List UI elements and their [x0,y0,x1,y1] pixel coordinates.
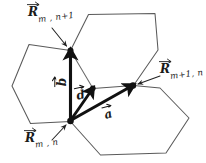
node-right [130,82,136,88]
vector-symbol-R-right: R [160,63,170,75]
vector-symbol-b: b [56,78,68,86]
hexagonal-lattice-figure: R m , n+1 R m+1, n R m , n [0,0,206,163]
label-text: R [28,5,38,19]
pointer-to-right-node [138,76,160,84]
label-R-m-n: R m , n [25,132,58,144]
label-vector-b: b [53,78,69,86]
node-basis [90,86,96,92]
vector-symbol-R-top: R [28,6,38,18]
label-R-m-plus-1-n: R m+1, n [160,63,203,75]
label-text: b [55,78,69,86]
vector-symbol-R-origin: R [25,132,35,144]
label-text: R [160,62,170,76]
hex-upper-right-outline [71,14,159,86]
label-R-m-n-plus-1: R m , n+1 [28,6,74,18]
node-origin [67,118,74,125]
label-text: R [25,131,35,145]
node-top [68,48,74,54]
pointer-to-top-node [52,28,67,46]
hex-edge-top-to-d [71,51,94,89]
